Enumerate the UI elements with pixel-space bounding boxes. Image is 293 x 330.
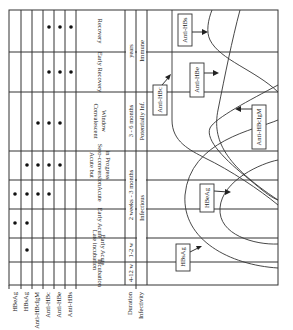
label-hbsag: HBsAg <box>179 247 186 267</box>
svg-text:in Progress: in Progress <box>105 150 112 180</box>
infectivity-potentially: Potentially Inf. <box>138 101 145 140</box>
phase-labels: Incubation Late incubation Early Acute E… <box>89 19 112 288</box>
phase-early-acute: Early Acute <box>97 208 104 239</box>
label-anti-hbe: Anti-HBe <box>193 67 200 93</box>
grid-ticks <box>9 285 136 289</box>
marker-label-hbeag: HBeAg <box>11 291 18 312</box>
label-anti-hbc: Anti-HBc <box>156 87 163 113</box>
marker-label-anti-hbc: Anti-HBc <box>44 292 51 318</box>
phase-convalescent-window: Convalescent Window <box>93 103 108 138</box>
svg-text:Acute but: Acute but <box>89 152 96 178</box>
infectivity-immune: Immune <box>138 40 145 62</box>
row-label-duration: Duration <box>126 291 133 315</box>
marker-labels: HBeAg HBsAg Anti-HBcIgM Anti-HBc Anti-HB… <box>11 291 144 329</box>
svg-text:Window: Window <box>101 110 108 132</box>
duration-acute-span: 2 weeks - 3 months <box>127 169 134 220</box>
marker-label-hbsag: HBsAg <box>22 291 29 311</box>
duration-recovery: years <box>127 44 134 58</box>
svg-text:Sero-conversion: Sero-conversion <box>97 144 104 187</box>
svg-text:Convalescent: Convalescent <box>93 103 100 138</box>
duration-late-incubation: 1-2 w <box>127 242 134 257</box>
infectivity-infectious: Infectious <box>138 195 145 221</box>
curve-labels: HBsAg HBeAg Anti-HBc Anti-HBe Anti-HBcIg… <box>153 14 266 271</box>
marker-label-anti-hbcigm: Anti-HBcIgM <box>33 292 40 329</box>
curve-anti-hbe <box>217 10 278 200</box>
marker-label-anti-hbe: Anti-HBe <box>55 292 62 318</box>
marker-label-anti-hbs: Anti-HBs <box>66 292 73 318</box>
phase-acute: Acute <box>97 186 104 202</box>
duration-incubation: 4-12 w <box>127 264 134 283</box>
phase-early-recovery: Early Recovery <box>97 52 104 93</box>
curve-anti-hbs <box>208 10 278 92</box>
hbv-serology-diagram: HBeAg HBsAg Anti-HBcIgM Anti-HBc Anti-HB… <box>0 0 293 330</box>
duration-convalescent: 3 - 6 months <box>127 104 134 137</box>
curve-hbeag <box>220 160 278 244</box>
svg-text:Early Acute: Early Acute <box>100 235 107 266</box>
label-hbeag: HBeAg <box>203 187 210 208</box>
label-anti-hbcigm: Anti-HBcIgM <box>255 108 262 145</box>
phase-seroconversion: Acute but Sero-conversion in Progress <box>89 144 112 187</box>
row-label-infectivity: Infectivity <box>137 291 144 319</box>
phase-recovery: Recovery <box>97 19 104 45</box>
label-anti-hbs: Anti-HBs <box>181 17 188 43</box>
